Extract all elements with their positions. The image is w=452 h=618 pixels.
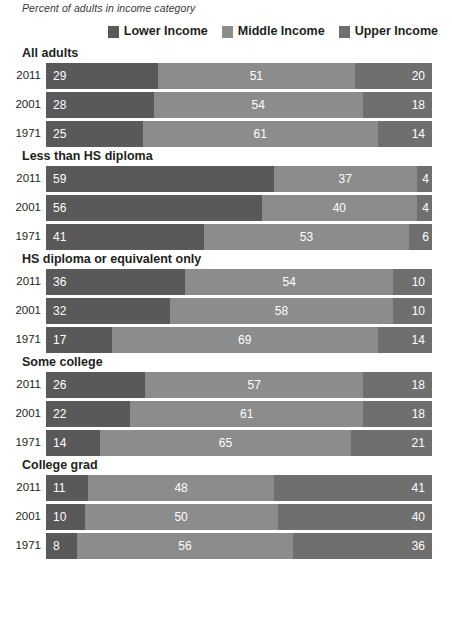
stacked-bar: 365410 bbox=[46, 269, 432, 295]
bar-segment-lower[interactable]: 25 bbox=[46, 121, 143, 147]
bar-segment-middle[interactable]: 54 bbox=[185, 269, 393, 295]
bar-segment-lower[interactable]: 28 bbox=[46, 92, 154, 118]
bar-segment-middle[interactable]: 51 bbox=[158, 63, 355, 89]
bar-segment-upper[interactable]: 36 bbox=[293, 533, 432, 559]
row-year-label: 1971 bbox=[0, 128, 46, 140]
bar-segment-value: 61 bbox=[254, 128, 267, 140]
bar-segment-middle[interactable]: 58 bbox=[170, 298, 394, 324]
bar-segment-value: 10 bbox=[412, 305, 432, 317]
bar-segment-middle[interactable]: 48 bbox=[88, 475, 273, 501]
bar-segment-middle[interactable]: 50 bbox=[85, 504, 278, 530]
bar-segment-upper[interactable]: 20 bbox=[355, 63, 432, 89]
row-year-label: 2011 bbox=[0, 379, 46, 391]
stacked-bar: 325810 bbox=[46, 298, 432, 324]
bar-segment-lower[interactable]: 56 bbox=[46, 195, 262, 221]
bar-segment-middle[interactable]: 37 bbox=[274, 166, 417, 192]
bar-segment-lower[interactable]: 11 bbox=[46, 475, 88, 501]
bar-segment-upper[interactable]: 4 bbox=[417, 166, 432, 192]
legend-swatch-upper bbox=[339, 26, 350, 38]
bar-segment-middle[interactable]: 54 bbox=[154, 92, 362, 118]
chart-row: 2001105040 bbox=[0, 504, 452, 530]
chart-group: All adults201129512020012854181971256114 bbox=[0, 44, 452, 147]
legend-item-lower[interactable]: Lower Income bbox=[108, 25, 208, 38]
bar-segment-lower[interactable]: 36 bbox=[46, 269, 185, 295]
bar-segment-value: 57 bbox=[248, 379, 261, 391]
bar-segment-middle[interactable]: 57 bbox=[145, 372, 363, 398]
bar-segment-lower[interactable]: 8 bbox=[46, 533, 77, 559]
group-title: College grad bbox=[0, 456, 452, 475]
row-year-label: 2001 bbox=[0, 511, 46, 523]
bar-segment-upper[interactable]: 18 bbox=[363, 92, 432, 118]
bar-segment-middle[interactable]: 65 bbox=[100, 430, 351, 456]
bar-segment-value: 14 bbox=[412, 128, 432, 140]
bar-segment-upper[interactable]: 40 bbox=[278, 504, 432, 530]
bar-segment-value: 54 bbox=[252, 99, 265, 111]
bar-segment-lower[interactable]: 32 bbox=[46, 298, 170, 324]
bar-segment-value: 10 bbox=[46, 511, 66, 523]
bar-segment-middle[interactable]: 56 bbox=[77, 533, 293, 559]
chart-row: 200156404 bbox=[0, 195, 452, 221]
legend-label: Upper Income bbox=[355, 25, 438, 38]
bar-segment-value: 36 bbox=[412, 540, 432, 552]
bar-segment-value: 54 bbox=[282, 276, 295, 288]
bar-segment-upper[interactable]: 18 bbox=[363, 372, 432, 398]
bar-segment-lower[interactable]: 22 bbox=[46, 401, 130, 427]
bar-segment-lower[interactable]: 59 bbox=[46, 166, 274, 192]
chart-row: 2001325810 bbox=[0, 298, 452, 324]
stacked-bar: 59374 bbox=[46, 166, 432, 192]
bar-segment-lower[interactable]: 29 bbox=[46, 63, 158, 89]
bar-segment-value: 41 bbox=[412, 482, 432, 494]
chart-row: 197141536 bbox=[0, 224, 452, 250]
bar-segment-upper[interactable]: 18 bbox=[363, 401, 432, 427]
bar-segment-value: 41 bbox=[46, 231, 66, 243]
bar-segment-upper[interactable]: 6 bbox=[409, 224, 432, 250]
bar-segment-value: 65 bbox=[219, 437, 232, 449]
chart-row: 1971176914 bbox=[0, 327, 452, 353]
stacked-bar: 56404 bbox=[46, 195, 432, 221]
bar-segment-value: 28 bbox=[46, 99, 66, 111]
bar-segment-middle[interactable]: 61 bbox=[130, 401, 363, 427]
bar-segment-upper[interactable]: 14 bbox=[378, 327, 432, 353]
stacked-bar: 256114 bbox=[46, 121, 432, 147]
stacked-bar: 265718 bbox=[46, 372, 432, 398]
group-title: All adults bbox=[0, 44, 452, 63]
bar-segment-middle[interactable]: 61 bbox=[143, 121, 378, 147]
bar-segment-lower[interactable]: 17 bbox=[46, 327, 112, 353]
bar-segment-upper[interactable]: 10 bbox=[393, 298, 432, 324]
bar-segment-upper[interactable]: 21 bbox=[351, 430, 432, 456]
legend-item-upper[interactable]: Upper Income bbox=[339, 25, 438, 38]
bar-segment-upper[interactable]: 14 bbox=[378, 121, 432, 147]
legend-swatch-middle bbox=[222, 26, 233, 38]
bar-segment-middle[interactable]: 53 bbox=[204, 224, 409, 250]
stacked-bar: 176914 bbox=[46, 327, 432, 353]
legend-item-middle[interactable]: Middle Income bbox=[222, 25, 325, 38]
bar-segment-value: 40 bbox=[412, 511, 432, 523]
chart-group: Less than HS diploma20115937420015640419… bbox=[0, 147, 452, 250]
bar-segment-upper[interactable]: 4 bbox=[417, 195, 432, 221]
bar-segment-lower[interactable]: 10 bbox=[46, 504, 85, 530]
chart-row: 2011365410 bbox=[0, 269, 452, 295]
legend-label: Lower Income bbox=[124, 25, 208, 38]
bar-segment-upper[interactable]: 10 bbox=[393, 269, 432, 295]
bar-segment-lower[interactable]: 26 bbox=[46, 372, 145, 398]
bar-segment-upper[interactable]: 41 bbox=[274, 475, 432, 501]
bar-segment-value: 11 bbox=[46, 482, 65, 494]
bar-segment-middle[interactable]: 40 bbox=[262, 195, 416, 221]
bar-segment-value: 8 bbox=[46, 540, 60, 552]
stacked-bar: 85636 bbox=[46, 533, 432, 559]
bar-segment-value: 32 bbox=[46, 305, 66, 317]
stacked-bar: 295120 bbox=[46, 63, 432, 89]
bar-segment-value: 53 bbox=[300, 231, 313, 243]
bar-segment-lower[interactable]: 14 bbox=[46, 430, 100, 456]
row-year-label: 1971 bbox=[0, 334, 46, 346]
bar-segment-value: 26 bbox=[46, 379, 66, 391]
row-year-label: 2011 bbox=[0, 173, 46, 185]
group-title: Some college bbox=[0, 353, 452, 372]
bar-segment-lower[interactable]: 41 bbox=[46, 224, 204, 250]
bar-segment-value: 22 bbox=[46, 408, 66, 420]
bar-segment-value: 18 bbox=[412, 408, 432, 420]
chart-row: 197185636 bbox=[0, 533, 452, 559]
legend-label: Middle Income bbox=[238, 25, 325, 38]
bar-segment-middle[interactable]: 69 bbox=[112, 327, 378, 353]
stacked-bar-chart: Percent of adults in income category Low… bbox=[0, 0, 452, 618]
